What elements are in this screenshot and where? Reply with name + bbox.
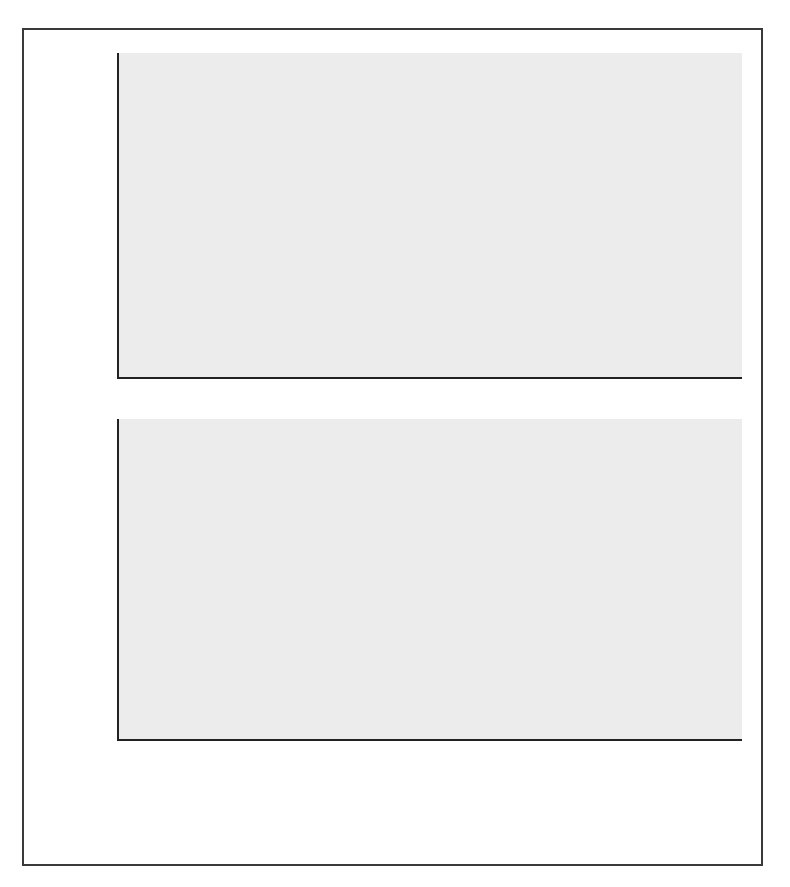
category-labels	[117, 743, 742, 873]
bodyweight-ticks	[117, 419, 118, 741]
bodyweight-bars-layer	[117, 419, 742, 741]
height-panel	[24, 30, 765, 410]
bodyweight-plot-area	[117, 419, 742, 741]
height-bars-layer	[117, 53, 742, 379]
height-plot-area	[117, 53, 742, 379]
figure-frame	[22, 28, 763, 866]
height-ticks	[117, 53, 118, 379]
bodyweight-panel	[24, 410, 765, 868]
